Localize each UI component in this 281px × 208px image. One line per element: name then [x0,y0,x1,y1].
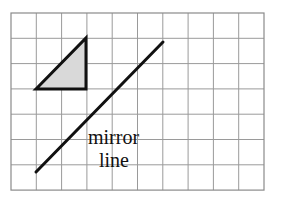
mirror-label: mirror [88,126,139,148]
reflection-diagram: mirror line [0,0,281,208]
figure-container: mirror line [0,0,281,208]
line-label: line [99,149,129,171]
